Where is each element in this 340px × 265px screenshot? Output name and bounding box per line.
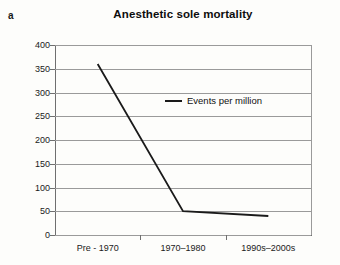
legend-label-events-per-million: Events per million: [187, 95, 262, 106]
figure-panel: a Anesthetic sole mortality 050100150200…: [0, 0, 340, 265]
legend: Events per million: [165, 95, 262, 106]
series-layer: [0, 0, 340, 265]
series-line-events-per-million: [98, 64, 269, 216]
legend-line-swatch: [165, 100, 182, 102]
